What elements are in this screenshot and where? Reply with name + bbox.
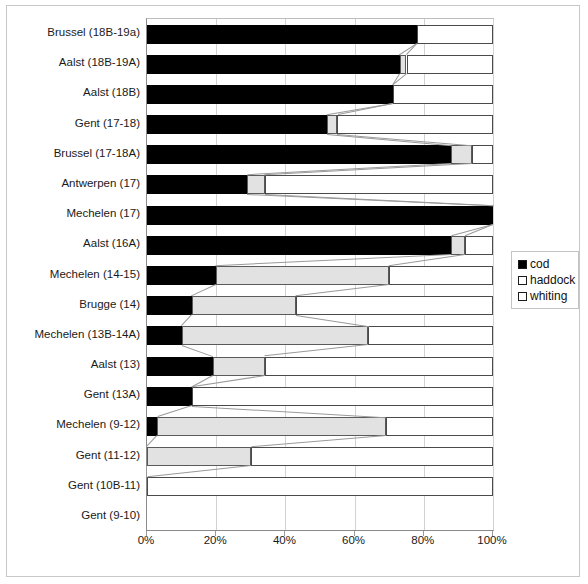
category-label: Mechelen (14-15) (50, 269, 140, 281)
bar-segment-cod[interactable] (147, 417, 157, 436)
bar-row[interactable] (147, 326, 493, 345)
category-label: Gent (17-18) (75, 118, 140, 130)
stack-connector-line (181, 314, 192, 326)
stack-connector-line (465, 224, 493, 236)
stack-connector-line (192, 375, 265, 387)
stack-connector-line (327, 103, 393, 115)
bar-segment-haddock[interactable] (327, 115, 337, 134)
bar-row[interactable] (147, 236, 493, 255)
legend-label: cod (530, 258, 549, 270)
bar-segment-haddock[interactable] (451, 145, 472, 164)
stack-connector-line (146, 435, 157, 447)
bar-segment-cod[interactable] (147, 326, 182, 345)
bar-row[interactable] (147, 206, 493, 225)
category-label: Gent (11-12) (76, 450, 140, 462)
category-label: Aalst (18B) (83, 87, 140, 99)
stack-connector-line (296, 284, 390, 296)
bar-segment-haddock[interactable] (192, 296, 296, 315)
bar-row[interactable] (147, 25, 493, 44)
bar-segment-cod[interactable] (147, 25, 417, 44)
legend-item-cod[interactable]: cod (518, 258, 573, 270)
bar-segment-whiting[interactable] (393, 85, 493, 104)
legend: codhaddockwhiting (511, 251, 579, 309)
x-tick-60% (354, 531, 355, 536)
bar-segment-cod[interactable] (147, 266, 216, 285)
bar-segment-haddock[interactable] (157, 417, 385, 436)
stack-connector-line (157, 405, 192, 417)
bar-row[interactable] (147, 477, 493, 496)
bar-row[interactable] (147, 115, 493, 134)
x-tick-100% (492, 531, 493, 536)
bar-row[interactable] (147, 145, 493, 164)
bar-segment-cod[interactable] (147, 206, 493, 225)
bar-segment-cod[interactable] (147, 115, 327, 134)
category-label: Gent (9-10) (81, 510, 140, 522)
category-label: Aalst (13) (91, 359, 140, 371)
category-label: Mechelen (13B-14A) (35, 329, 140, 341)
bar-segment-cod[interactable] (147, 387, 192, 406)
bar-segment-haddock[interactable] (451, 236, 465, 255)
bar-segment-cod[interactable] (147, 236, 451, 255)
bar-segment-haddock[interactable] (182, 326, 369, 345)
x-tick-40% (284, 531, 285, 536)
stack-connector-line (406, 43, 417, 55)
stack-connector-line (392, 73, 400, 85)
bar-segment-whiting[interactable] (472, 145, 493, 164)
bar-segment-whiting[interactable] (386, 417, 493, 436)
bar-segment-whiting[interactable] (265, 175, 493, 194)
legend-item-whiting[interactable]: whiting (518, 290, 573, 302)
bar-segment-whiting[interactable] (337, 115, 493, 134)
bar-row[interactable] (147, 387, 493, 406)
stack-connector-line (337, 103, 393, 115)
bar-segment-cod[interactable] (147, 55, 400, 74)
bar-segment-whiting[interactable] (251, 447, 493, 466)
filled-black-square-icon (518, 260, 527, 269)
bar-segment-whiting[interactable] (389, 266, 493, 285)
bar-segment-cod[interactable] (147, 357, 213, 376)
stack-connector-line (251, 435, 386, 447)
bar-row[interactable] (147, 296, 493, 315)
stack-connector-line (451, 224, 493, 236)
bar-segment-haddock[interactable] (400, 55, 407, 74)
bar-segment-whiting[interactable] (465, 236, 493, 255)
bar-row[interactable] (147, 55, 493, 74)
bar-segment-whiting[interactable] (296, 296, 493, 315)
bar-segment-cod[interactable] (147, 145, 451, 164)
bar-segment-whiting[interactable] (265, 357, 493, 376)
stack-connector-line (247, 163, 451, 175)
bar-row[interactable] (147, 85, 493, 104)
bar-row[interactable] (147, 175, 493, 194)
bar-segment-haddock[interactable] (213, 357, 265, 376)
open-square-icon (518, 292, 527, 301)
bar-segment-haddock[interactable] (147, 447, 251, 466)
stack-connector-line (392, 73, 406, 85)
stack-connector-line (216, 254, 451, 266)
bar-segment-cod[interactable] (147, 85, 393, 104)
bar-segment-whiting[interactable] (368, 326, 493, 345)
category-label: Brugge (14) (79, 299, 140, 311)
legend-item-haddock[interactable]: haddock (518, 274, 573, 286)
bar-segment-cod[interactable] (147, 296, 192, 315)
bar-segment-whiting[interactable] (407, 55, 494, 74)
bar-segment-whiting[interactable] (417, 25, 493, 44)
bar-row[interactable] (147, 357, 493, 376)
stack-connector-line (147, 465, 251, 477)
chart-frame: Brussel (18B-19a)Aalst (18B-19A)Aalst (1… (6, 5, 580, 577)
bar-row[interactable] (147, 266, 493, 285)
category-label: Mechelen (17) (66, 208, 140, 220)
bar-segment-haddock[interactable] (216, 266, 389, 285)
bar-row[interactable] (147, 417, 493, 436)
stack-connector-line (389, 254, 465, 266)
bar-segment-whiting[interactable] (147, 477, 493, 496)
stack-connector-line (146, 466, 147, 477)
category-label: Antwerpen (17) (61, 178, 140, 190)
bar-segment-whiting[interactable] (192, 387, 493, 406)
bar-row[interactable] (147, 447, 493, 466)
stack-connector-line (265, 163, 473, 175)
category-label: Gent (13A) (84, 389, 140, 401)
bars-layer (147, 19, 493, 530)
bar-segment-cod[interactable] (147, 175, 247, 194)
plot-area (146, 18, 494, 531)
bar-segment-haddock[interactable] (247, 175, 264, 194)
category-label: Gent (10B-11) (68, 480, 140, 492)
